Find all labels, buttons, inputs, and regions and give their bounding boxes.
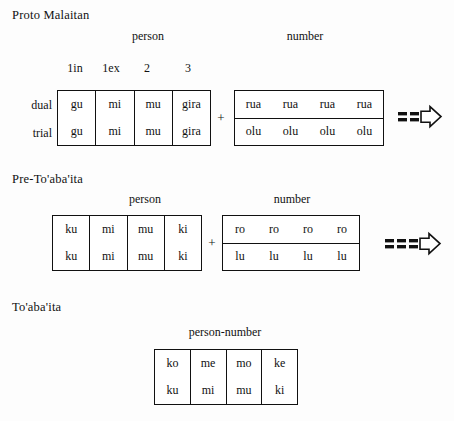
stage-title-toabaita: To'aba'ita bbox=[12, 300, 61, 315]
fused-matrix-toabaita: ko me mo ke ku mi mu ki bbox=[154, 349, 298, 405]
cell-number2-r2-3: lu bbox=[325, 244, 359, 271]
operator-plus-2: + bbox=[205, 235, 219, 251]
cell-number-dual-1ex: rua bbox=[272, 91, 309, 118]
table-row: olu olu olu olu bbox=[235, 118, 383, 146]
table-row: lu lu lu lu bbox=[223, 243, 359, 271]
cell-fused-r2-2: mu bbox=[226, 377, 262, 404]
column-header-2: 2 bbox=[129, 61, 165, 76]
cell-person2-r1-1in: ku bbox=[53, 216, 89, 243]
category-label-person-2: person bbox=[85, 192, 205, 207]
category-label-number-2: number bbox=[232, 192, 352, 207]
table-row: gu mi mu gira bbox=[58, 91, 210, 118]
cell-person2-r2-1in: ku bbox=[53, 243, 89, 270]
cell-person2-r2-2: mu bbox=[127, 243, 164, 270]
cell-number-trial-2: olu bbox=[309, 119, 346, 146]
row-label-dual: dual bbox=[6, 98, 52, 113]
evolution-arrow-icon-1 bbox=[398, 104, 446, 128]
table-row: ko me mo ke bbox=[155, 350, 297, 377]
table-row: gu mi mu gira bbox=[58, 118, 210, 145]
cell-number2-r2-2: lu bbox=[291, 244, 325, 271]
cell-number-dual-1in: rua bbox=[235, 91, 272, 118]
category-label-person-number: person-number bbox=[125, 325, 325, 340]
cell-fused-r1-1ex: me bbox=[190, 350, 226, 377]
cell-number-dual-2: rua bbox=[309, 91, 346, 118]
cell-fused-r2-3: ki bbox=[261, 377, 297, 404]
cell-number2-r2-1in: lu bbox=[223, 244, 257, 271]
cell-person-trial-1ex: mi bbox=[95, 118, 133, 145]
cell-number2-r1-2: ro bbox=[291, 216, 325, 243]
cell-fused-r1-1in: ko bbox=[155, 350, 190, 377]
table-row: ku mi mu ki bbox=[53, 243, 201, 270]
table-row: rua rua rua rua bbox=[235, 91, 383, 118]
cell-number2-r1-1ex: ro bbox=[257, 216, 291, 243]
cell-person2-r1-3: ki bbox=[164, 216, 201, 243]
number-matrix-pre-toabaita: ro ro ro ro lu lu lu lu bbox=[222, 215, 360, 271]
cell-person-trial-2: mu bbox=[134, 118, 172, 145]
person-matrix-proto-malaitan: gu mi mu gira gu mi mu gira bbox=[57, 90, 211, 146]
cell-person2-r1-2: mu bbox=[127, 216, 164, 243]
operator-plus-1: + bbox=[214, 110, 228, 126]
category-label-number-1: number bbox=[245, 29, 365, 44]
row-label-trial: trial bbox=[6, 126, 52, 141]
cell-fused-r1-3: ke bbox=[261, 350, 297, 377]
cell-number2-r1-3: ro bbox=[325, 216, 359, 243]
cell-person-dual-3: gira bbox=[172, 91, 210, 118]
cell-fused-r2-1ex: mi bbox=[190, 377, 226, 404]
person-matrix-pre-toabaita: ku mi mu ki ku mi mu ki bbox=[52, 215, 202, 271]
cell-number-dual-3: rua bbox=[346, 91, 383, 118]
cell-person-trial-3: gira bbox=[172, 118, 210, 145]
cell-person-dual-2: mu bbox=[134, 91, 172, 118]
stage-title-pre-toabaita: Pre-To'aba'ita bbox=[12, 172, 83, 187]
cell-number-trial-1ex: olu bbox=[272, 119, 309, 146]
cell-person-dual-1ex: mi bbox=[95, 91, 133, 118]
table-row: ku mi mu ki bbox=[155, 377, 297, 404]
cell-number2-r1-1in: ro bbox=[223, 216, 257, 243]
cell-person2-r2-3: ki bbox=[164, 243, 201, 270]
cell-fused-r2-1in: ku bbox=[155, 377, 190, 404]
stage-title-proto-malaitan: Proto Malaitan bbox=[12, 8, 89, 23]
cell-number2-r2-1ex: lu bbox=[257, 244, 291, 271]
column-header-1in: 1in bbox=[57, 61, 93, 76]
number-matrix-proto-malaitan: rua rua rua rua olu olu olu olu bbox=[234, 90, 384, 146]
cell-person2-r1-1ex: mi bbox=[89, 216, 126, 243]
evolution-arrow-icon-2 bbox=[385, 231, 445, 255]
column-header-3: 3 bbox=[165, 61, 211, 76]
cell-fused-r1-2: mo bbox=[226, 350, 262, 377]
category-label-person-1: person bbox=[88, 29, 208, 44]
table-row: ro ro ro ro bbox=[223, 216, 359, 243]
cell-person-trial-1in: gu bbox=[58, 118, 95, 145]
cell-number-trial-3: olu bbox=[346, 119, 383, 146]
table-row: ku mi mu ki bbox=[53, 216, 201, 243]
column-header-1ex: 1ex bbox=[93, 61, 129, 76]
cell-person2-r2-1ex: mi bbox=[89, 243, 126, 270]
cell-person-dual-1in: gu bbox=[58, 91, 95, 118]
cell-number-trial-1in: olu bbox=[235, 119, 272, 146]
